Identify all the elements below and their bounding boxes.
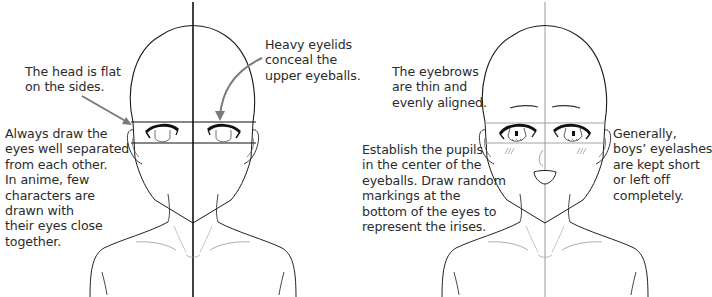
right-eyebrow-right — [552, 106, 580, 108]
left-arm-line-left — [102, 272, 107, 295]
left-eye-lid-right-tail — [236, 132, 240, 138]
annotation-heavy-eyelids: Heavy eyelids conceal the upper eyeballs… — [265, 37, 361, 83]
arrow-head-flat — [82, 96, 132, 125]
right-neck-muscle-right — [552, 226, 564, 252]
annotation-head-flat: The head is flat on the sides. — [25, 64, 121, 95]
right-eye-right — [554, 125, 590, 141]
left-head-side-left — [133, 122, 135, 158]
left-arm-line-right — [279, 272, 284, 295]
left-neck-muscle-left — [174, 226, 186, 252]
left-eyeball-right — [216, 130, 231, 142]
right-collarbone-left — [488, 242, 528, 250]
right-collarbone-right — [562, 242, 602, 250]
right-blush-right — [577, 148, 586, 154]
left-eye-lid-right — [208, 125, 240, 132]
right-eyebrow-left — [510, 106, 538, 108]
right-mouth — [534, 171, 556, 185]
right-arm-line-left — [454, 272, 459, 295]
right-blush-left — [505, 148, 514, 154]
annotation-eyelashes: Generally, boys’ eyelashes are kept shor… — [613, 126, 712, 203]
annotation-eyes-separated: Always draw the eyes well separated from… — [5, 126, 129, 249]
left-shoulder-right — [218, 222, 296, 297]
left-eye-lid-left — [146, 125, 178, 132]
right-arm-line-right — [631, 272, 636, 295]
left-eye-lid-left-tail — [146, 132, 150, 138]
left-ear-right-inner — [247, 138, 254, 157]
left-neck-muscle-right — [200, 226, 212, 252]
annotation-pupils: Establish the pupils in the center of th… — [362, 142, 506, 234]
arrow-heavy-eyelids — [215, 58, 262, 121]
left-eyeball-left — [155, 130, 170, 142]
left-ear-left-inner — [132, 138, 139, 157]
right-ear-right-inner — [599, 138, 606, 157]
right-eye-left — [500, 125, 536, 141]
right-head-side-right — [603, 122, 605, 158]
left-collarbone-right — [210, 242, 250, 250]
right-nose — [539, 150, 543, 166]
annotation-eyebrows: The eyebrows are thin and evenly aligned… — [392, 64, 487, 110]
right-neck-muscle-left — [526, 226, 538, 252]
left-head-side-right — [251, 122, 253, 158]
right-shoulder-right — [570, 222, 648, 297]
left-collarbone-left — [136, 242, 176, 250]
right-head-outline — [482, 26, 606, 123]
